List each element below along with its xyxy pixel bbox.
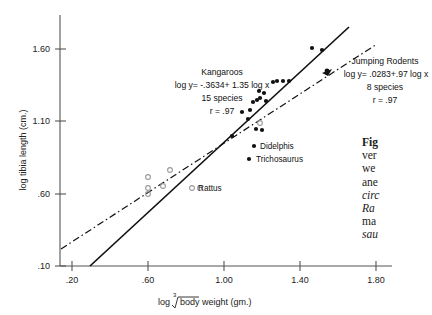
data-point xyxy=(320,48,324,52)
data-point-trichosaurus xyxy=(247,157,251,161)
data-point xyxy=(258,96,262,100)
label-rattus: Rattus xyxy=(198,184,222,193)
data-point xyxy=(251,100,255,104)
caption-line: ver xyxy=(362,149,432,162)
x-axis-tick-labels: .20 .60 1.00 1.40 1.80 xyxy=(66,275,385,285)
x-axis-title-root-index: 3 xyxy=(173,292,177,298)
x-axis-title: log 3 body weight (gm.) xyxy=(158,292,252,308)
x-tick-label: 1.80 xyxy=(367,275,385,285)
kangaroos-annotation: Kangaroos log y= -.3634+ 1.35 log x 15 s… xyxy=(175,67,270,116)
y-tick-label: 1.60 xyxy=(32,44,50,54)
x-tick-label: 1.00 xyxy=(215,275,233,285)
data-point xyxy=(287,79,291,83)
kangaroos-species-count: 15 species xyxy=(201,93,242,103)
data-point xyxy=(260,128,264,132)
caption-line: Fig xyxy=(362,136,432,149)
y-axis-title: log tibia length (cm.) xyxy=(18,109,28,190)
x-tick-label: .20 xyxy=(66,275,79,285)
data-point-rattus-cluster xyxy=(258,121,263,126)
y-tick-label: .60 xyxy=(37,189,50,199)
data-point xyxy=(168,168,173,173)
caption-line: ane xyxy=(362,176,432,189)
x-tick-label: .60 xyxy=(142,275,155,285)
data-point xyxy=(240,110,244,114)
x-axis-title-main: body weight (gm.) xyxy=(180,297,252,307)
kangaroos-equation: log y= -.3634+ 1.35 log x xyxy=(175,80,270,90)
caption-line: ma xyxy=(362,215,432,228)
x-tick-label: 1.40 xyxy=(291,275,309,285)
marsupial-outlier-points xyxy=(247,144,256,161)
data-point xyxy=(146,186,151,191)
caption-line: sau xyxy=(362,228,432,241)
label-trichosaurus: Trichosaurus xyxy=(256,155,303,164)
kangaroos-correlation: r = .97 xyxy=(210,106,235,116)
kangaroos-title: Kangaroos xyxy=(201,67,243,77)
data-point xyxy=(262,91,266,95)
rodents-correlation: r = .97 xyxy=(373,95,398,105)
rodents-title: Jumping Rodents xyxy=(352,56,419,66)
data-point xyxy=(248,108,252,112)
point-labels: Didelphis Trichosaurus Rattus xyxy=(190,142,303,193)
y-tick-label: .10 xyxy=(37,261,50,271)
data-point xyxy=(246,117,250,121)
rodents-species-count: 8 species xyxy=(367,82,403,92)
caption-line: we xyxy=(362,162,432,175)
data-point-didelphis xyxy=(252,144,256,148)
caption-line: Ra xyxy=(362,202,432,215)
y-axis-tick-labels: 1.60 1.10 .60 .10 xyxy=(32,44,50,271)
caption-line: circ xyxy=(362,189,432,202)
label-didelphis: Didelphis xyxy=(260,142,294,151)
data-point xyxy=(161,184,166,189)
figure-caption: Fig ver we ane circ Ra ma sau xyxy=(362,136,432,242)
data-point xyxy=(310,46,314,50)
data-point xyxy=(230,134,234,138)
data-point xyxy=(281,79,285,83)
data-point xyxy=(264,99,268,103)
rodent-marker-on-line xyxy=(322,69,332,76)
x-axis-title-prefix: log xyxy=(158,297,170,307)
data-point-rattus xyxy=(190,186,195,191)
data-point xyxy=(146,175,151,180)
rodents-annotation: Jumping Rodents log y= .0283+.97 log x 8… xyxy=(344,56,429,105)
data-point xyxy=(254,127,258,131)
rodents-equation: log y= .0283+.97 log x xyxy=(344,69,429,79)
data-point xyxy=(271,80,275,84)
data-point xyxy=(275,79,279,83)
y-tick-label: 1.10 xyxy=(32,116,50,126)
